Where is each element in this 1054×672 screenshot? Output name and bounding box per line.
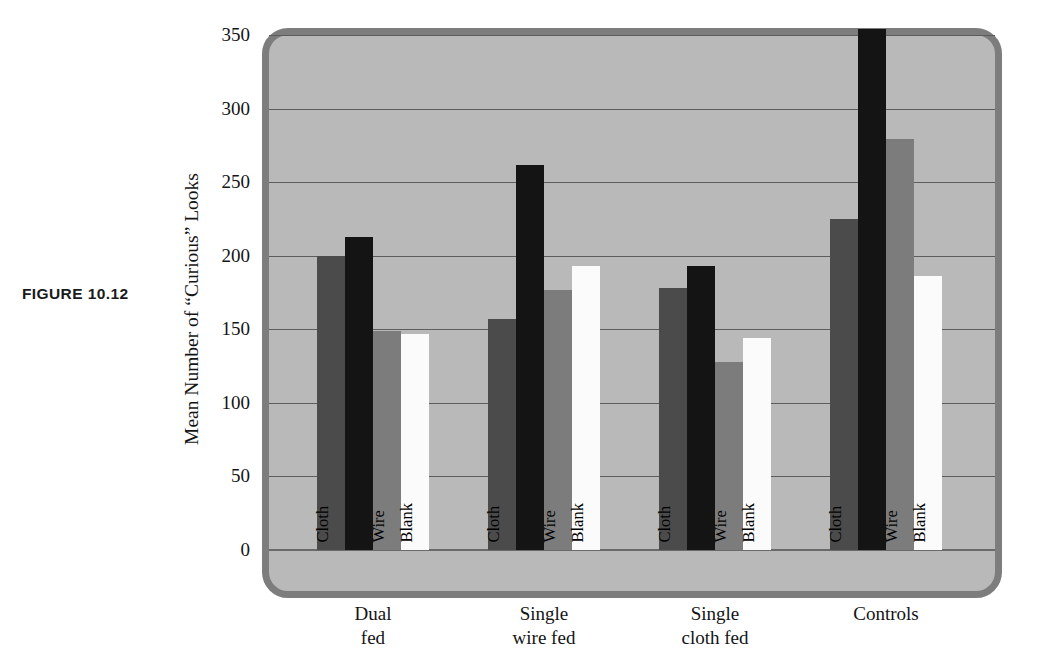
y-axis-ticks: 050100150200250300350 — [188, 0, 250, 672]
bar-label: Blank — [741, 503, 758, 542]
bar-blank: Blank — [401, 334, 429, 550]
figure-root: FIGURE 10.12 Mean Number of “Curious” Lo… — [0, 0, 1054, 672]
y-tick-label: 150 — [190, 318, 250, 340]
bar-label: Wire — [884, 510, 901, 542]
figure-caption: FIGURE 10.12 — [22, 285, 182, 303]
gridline — [269, 35, 995, 36]
bar-blank: Blank — [572, 266, 600, 550]
x-group-label: Single wire fed — [513, 602, 576, 650]
bar-wire: Wire — [886, 139, 914, 550]
bar-label: Blank — [570, 503, 587, 542]
y-tick-label: 350 — [190, 24, 250, 46]
y-tick-label: 300 — [190, 98, 250, 120]
bar-cloth: Cloth — [317, 256, 345, 550]
bar-label: Wire — [542, 510, 559, 542]
bar-label: Wire — [371, 510, 388, 542]
bar-label: Cloth — [486, 505, 503, 542]
bar-black — [858, 29, 886, 550]
y-tick-label: 250 — [190, 171, 250, 193]
bar-cloth: Cloth — [830, 219, 858, 550]
bar-label: Blank — [399, 503, 416, 542]
bar-cloth: Cloth — [488, 319, 516, 550]
x-group-label: Dual fed — [355, 602, 392, 650]
bar-label: Blank — [912, 503, 929, 542]
bar-cloth: Cloth — [659, 288, 687, 550]
y-tick-label: 100 — [190, 392, 250, 414]
x-group-label: Controls — [853, 602, 918, 626]
bar-black — [516, 165, 544, 551]
y-tick-label: 50 — [190, 465, 250, 487]
bar-label: Wire — [713, 510, 730, 542]
bar-blank: Blank — [743, 338, 771, 550]
bar-label: Cloth — [828, 505, 845, 542]
y-tick-label: 0 — [190, 539, 250, 561]
bar-blank: Blank — [914, 276, 942, 550]
bar-label: Cloth — [315, 505, 332, 542]
plot-area: ClothWireBlankClothWireBlankClothWireBla… — [269, 35, 995, 550]
x-axis-labels: Dual fedSingle wire fedSingle cloth fedC… — [262, 602, 1002, 664]
bar-label: Cloth — [657, 505, 674, 542]
bar-black — [345, 237, 373, 550]
gridline — [269, 109, 995, 110]
y-tick-label: 200 — [190, 245, 250, 267]
bar-black — [687, 266, 715, 550]
x-group-label: Single cloth fed — [681, 602, 748, 650]
